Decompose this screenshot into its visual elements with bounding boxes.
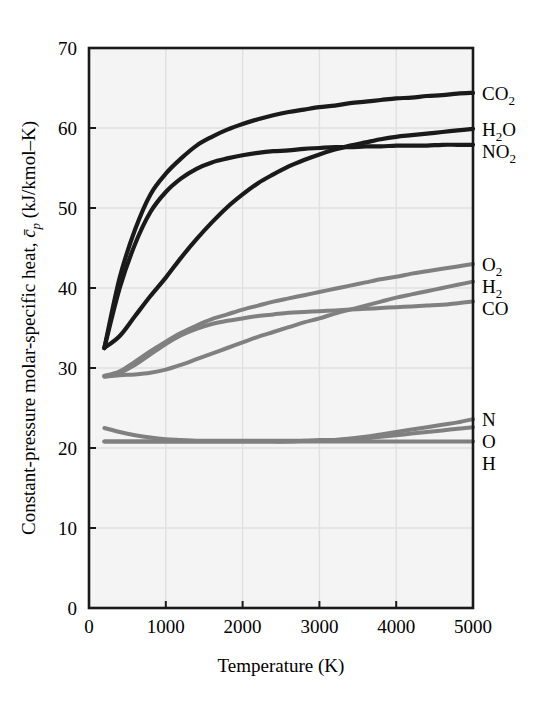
x-tick-label-0: 0	[84, 616, 94, 637]
y-tick-label-60: 60	[58, 118, 77, 139]
y-tick-label-30: 30	[58, 358, 77, 379]
chart-figure: 010002000300040005000 010203040506070 CO…	[0, 0, 547, 701]
y-tick-label-10: 10	[58, 518, 77, 539]
x-tick-label-3000: 3000	[300, 616, 338, 637]
cp-vs-temperature-chart: 010002000300040005000 010203040506070 CO…	[0, 0, 547, 701]
series-label-o: O	[482, 431, 496, 452]
x-tick-label-4000: 4000	[377, 616, 415, 637]
x-tick-label-5000: 5000	[454, 616, 492, 637]
x-tick-label-2000: 2000	[224, 616, 262, 637]
x-tick-label-1000: 1000	[147, 616, 185, 637]
y-tick-label-40: 40	[58, 278, 77, 299]
y-tick-label-0: 0	[68, 598, 78, 619]
x-axis-title: Temperature (K)	[218, 655, 345, 677]
y-tick-label-20: 20	[58, 438, 77, 459]
series-label-h: H	[482, 453, 496, 474]
y-tick-label-50: 50	[58, 198, 77, 219]
y-tick-label-70: 70	[58, 38, 77, 59]
series-label-n: N	[482, 409, 496, 430]
series-label-co: CO	[482, 298, 508, 319]
